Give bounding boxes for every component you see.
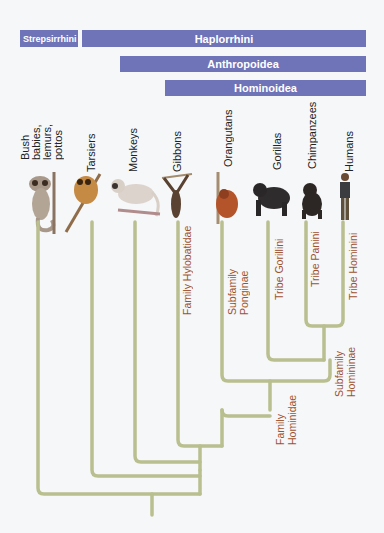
taxon-tribe-gorillini: Tribe Gorillini [273,225,285,300]
taxon-family-hominidae: Family Hominidae [274,385,298,445]
taxon-subfamily-homininae: Subfamily Homininae [333,335,357,397]
taxon-subfamily-ponginae: Subfamily Ponginae [226,225,250,315]
taxon-family-hylobatidae: Family Hylobatidae [181,225,193,315]
taxon-tribe-hominini: Tribe Hominini [347,225,359,300]
taxon-tribe-panini: Tribe Panini [309,225,321,287]
